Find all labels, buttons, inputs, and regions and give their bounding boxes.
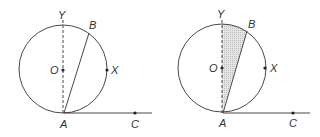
label-a: A: [218, 117, 226, 129]
point-c: [133, 111, 136, 114]
label-x: X: [269, 62, 278, 74]
right-figure: Y B O X A C: [178, 8, 310, 129]
point-c: [291, 111, 294, 114]
label-y: Y: [58, 9, 66, 21]
point-o: [61, 68, 64, 71]
point-o: [220, 66, 223, 69]
label-c: C: [289, 117, 297, 129]
label-b: B: [89, 19, 96, 31]
shaded-region: [222, 24, 247, 113]
chord-ab: [64, 33, 89, 113]
label-o: O: [209, 62, 218, 74]
label-x: X: [110, 64, 119, 76]
diagram-canvas: Y B O X A C Y B O X A C: [0, 0, 320, 137]
left-figure: Y B O X A C: [19, 9, 152, 130]
label-b: B: [248, 18, 255, 30]
label-o: O: [50, 64, 59, 76]
label-y: Y: [217, 8, 225, 20]
point-x: [105, 68, 108, 71]
point-x: [263, 66, 266, 69]
label-a: A: [59, 118, 67, 130]
label-c: C: [131, 118, 139, 130]
